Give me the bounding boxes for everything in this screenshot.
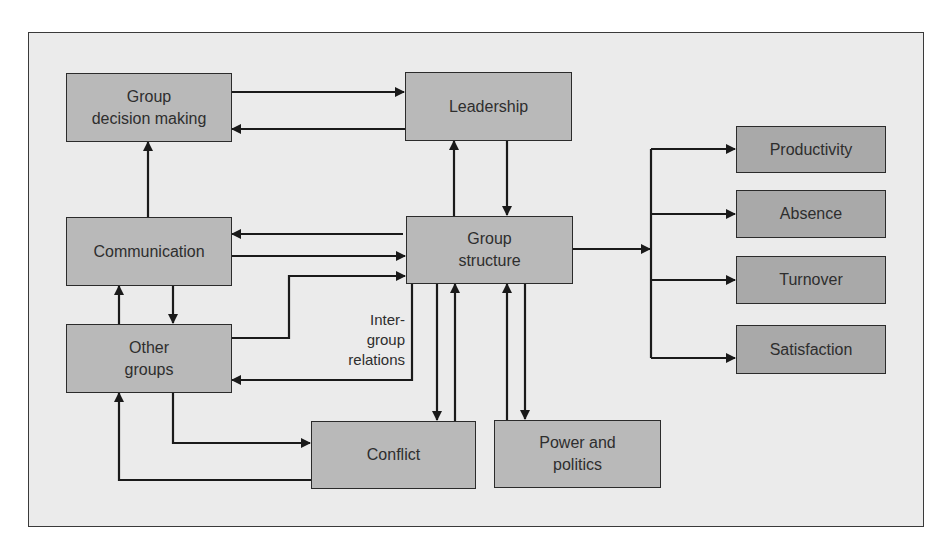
node-absence: Absence	[736, 190, 886, 238]
node-satisfaction: Satisfaction	[736, 325, 886, 374]
edge-label-line-1: Inter-	[340, 310, 405, 330]
node-label: Turnover	[779, 269, 842, 291]
node-communication: Communication	[66, 217, 232, 286]
node-conflict: Conflict	[311, 421, 476, 489]
node-label: Productivity	[770, 139, 853, 161]
node-label: Communication	[93, 241, 204, 263]
arrow-conflict-to-othergroups	[119, 393, 311, 480]
arrow-othergroups-to-conflict	[173, 392, 310, 443]
node-label-line-2: groups	[125, 359, 174, 381]
node-label-line-2: structure	[458, 250, 520, 272]
node-group-decision-making: Group decision making	[66, 73, 232, 142]
node-label-line-1: Power and	[539, 432, 616, 454]
edge-label-line-2: group	[340, 330, 405, 350]
node-turnover: Turnover	[736, 256, 886, 304]
node-power-and-politics: Power and politics	[494, 420, 661, 488]
node-label: Absence	[780, 203, 842, 225]
node-label: Conflict	[367, 444, 420, 466]
node-label: Satisfaction	[770, 339, 853, 361]
edge-label-line-3: relations	[340, 350, 405, 370]
node-other-groups: Other groups	[66, 324, 232, 393]
node-label-line-1: Group	[458, 228, 520, 250]
edge-label-intergroup-relations: Inter- group relations	[340, 310, 405, 370]
node-productivity: Productivity	[736, 126, 886, 173]
node-label-line-2: politics	[539, 454, 616, 476]
node-leadership: Leadership	[405, 72, 572, 141]
node-label-line-2: decision making	[92, 108, 207, 130]
node-label-line-1: Other	[125, 337, 174, 359]
node-group-structure: Group structure	[406, 216, 573, 284]
node-label-line-1: Group	[92, 86, 207, 108]
node-label: Leadership	[449, 96, 528, 118]
